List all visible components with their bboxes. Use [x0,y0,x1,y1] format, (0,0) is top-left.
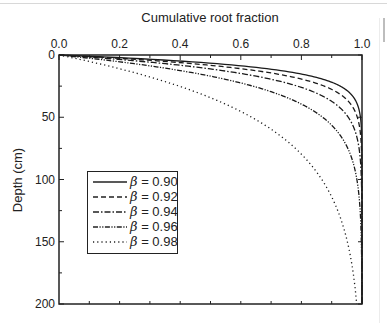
beta-symbol: β [130,219,138,234]
svg-text:0.2: 0.2 [111,37,128,51]
svg-text:0.6: 0.6 [232,37,249,51]
solid-line-icon [92,181,128,184]
svg-text:0.4: 0.4 [172,37,189,51]
svg-text:100: 100 [35,173,55,187]
legend-value: = 0.96 [141,219,178,234]
y-axis-label: Depth (cm) [10,148,25,212]
legend-item-0.90: β = 0.90 [92,175,176,189]
legend-value: = 0.94 [141,204,178,219]
legend-item-0.94: β = 0.94 [92,205,176,219]
legend-value: = 0.98 [141,234,178,249]
beta-symbol: β [130,174,138,189]
beta-symbol: β [130,204,138,219]
svg-text:0.8: 0.8 [293,37,310,51]
dotted-line-icon [92,241,128,244]
x-axis-label: Cumulative root fraction [141,10,278,25]
svg-text:150: 150 [35,235,55,249]
svg-text:1.0: 1.0 [354,37,371,51]
beta-symbol: β [130,189,138,204]
legend-item-0.96: β = 0.96 [92,220,176,234]
chart-legend: β = 0.90 β = 0.92 β = 0.94 β = 0.96 β = … [87,171,178,254]
dashed-line-icon [92,196,128,199]
svg-text:0: 0 [48,48,55,62]
legend-item-0.98: β = 0.98 [92,235,176,249]
root-fraction-chart: Cumulative root fraction Depth (cm) 0.00… [0,0,387,323]
legend-value: = 0.92 [141,189,178,204]
beta-symbol: β [130,234,138,249]
svg-text:200: 200 [35,297,55,311]
svg-text:50: 50 [42,110,56,124]
dash-dot-line-icon [92,211,128,214]
legend-value: = 0.90 [141,174,178,189]
y-axis-ticks: 050100150200 [35,48,362,311]
dash-dot-dot-line-icon [92,226,128,229]
legend-item-0.92: β = 0.92 [92,190,176,204]
